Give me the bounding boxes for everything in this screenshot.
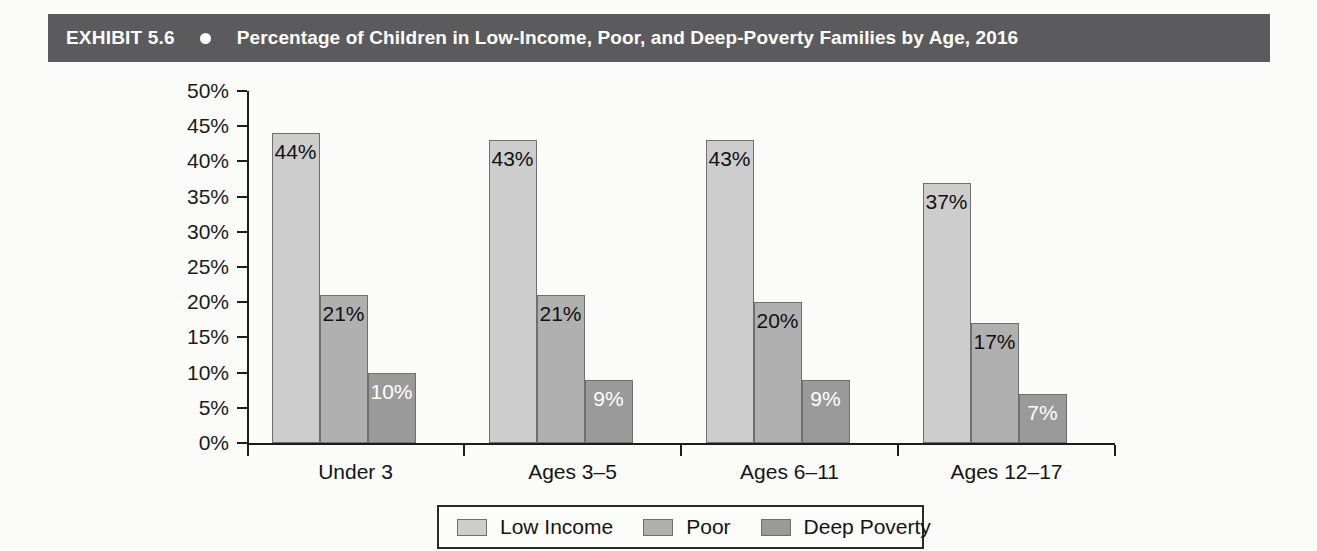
legend-swatch-icon [761,519,791,536]
y-axis-tick [237,372,247,374]
exhibit-title: Percentage of Children in Low-Income, Po… [237,27,1018,49]
legend-swatch-icon [643,519,673,536]
bar-deep-poverty-ages-12-17: 7% [1019,394,1067,443]
bar-value-label: 37% [925,191,967,442]
x-axis-tick [1114,445,1116,456]
y-axis-tick [237,125,247,127]
legend-item-poor: Poor [643,515,730,539]
bar-poor-ages-12-17: 17% [971,323,1019,443]
bar-value-label: 43% [708,148,750,442]
legend-label: Low Income [500,515,613,539]
y-axis-tick-label: 5% [199,396,229,420]
bar-value-label: 20% [756,310,798,442]
x-axis-tick [897,445,899,456]
y-axis-tick [237,442,247,444]
y-axis-tick [237,160,247,162]
bar-poor-ages-3-5: 21% [537,295,585,443]
y-axis-tick-label: 35% [187,185,229,209]
y-axis-tick [237,407,247,409]
bar-value-label: 43% [491,148,533,442]
y-axis-tick-label: 0% [199,431,229,455]
bar-value-label: 44% [274,141,316,442]
bar-deep-poverty-ages-3-5: 9% [585,380,633,443]
y-axis-tick [237,90,247,92]
bullet-dot-icon [200,33,211,44]
y-axis-tick [237,231,247,233]
bar-value-label: 7% [1027,402,1057,442]
bar-value-label: 21% [539,303,581,442]
bar-low-income-ages-3-5: 43% [489,140,537,443]
x-axis-tick [247,445,249,456]
bar-value-label: 21% [322,303,364,442]
exhibit-header-bar: EXHIBIT 5.6 Percentage of Children in Lo… [48,14,1270,62]
x-axis-category-label: Ages 3–5 [528,460,617,484]
bar-value-label: 9% [810,388,840,442]
bar-value-label: 17% [973,331,1015,442]
x-axis-category-label: Under 3 [318,460,393,484]
x-axis-tick [680,445,682,456]
x-axis-category-label: Ages 6–11 [740,460,839,484]
y-axis-tick [237,196,247,198]
y-axis-tick-label: 50% [187,79,229,103]
y-axis-tick [237,266,247,268]
bar-chart: 0%5%10%15%20%25%30%35%40%45%50% 44%21%10… [0,62,1317,551]
y-axis-tick-label: 45% [187,114,229,138]
bar-poor-under-3: 21% [320,295,368,443]
y-axis-tick-label: 30% [187,220,229,244]
x-axis-category-label: Ages 12–17 [950,460,1062,484]
y-axis-tick [237,301,247,303]
y-axis-tick-label: 20% [187,290,229,314]
y-axis-tick-label: 15% [187,325,229,349]
legend-label: Deep Poverty [804,515,931,539]
legend-label: Poor [686,515,730,539]
legend-swatch-icon [457,519,487,536]
legend-item-deep-poverty: Deep Poverty [761,515,931,539]
exhibit-number-label: EXHIBIT 5.6 [66,27,175,49]
chart-legend: Low IncomePoorDeep Poverty [437,505,924,549]
bar-poor-ages-6-11: 20% [754,302,802,443]
bar-low-income-ages-6-11: 43% [706,140,754,443]
legend-item-low-income: Low Income [457,515,613,539]
y-axis-tick-label: 40% [187,149,229,173]
bar-low-income-under-3: 44% [272,133,320,443]
bar-value-label: 10% [370,381,412,442]
y-axis-tick-label: 25% [187,255,229,279]
bar-deep-poverty-under-3: 10% [368,373,416,443]
y-axis-tick-label: 10% [187,361,229,385]
bar-value-label: 9% [593,388,623,442]
y-axis-tick [237,336,247,338]
plot-area: 44%21%10%43%21%9%43%20%9%37%17%7% [247,91,1115,443]
x-axis-tick [463,445,465,456]
bar-deep-poverty-ages-6-11: 9% [802,380,850,443]
bar-low-income-ages-12-17: 37% [923,183,971,443]
